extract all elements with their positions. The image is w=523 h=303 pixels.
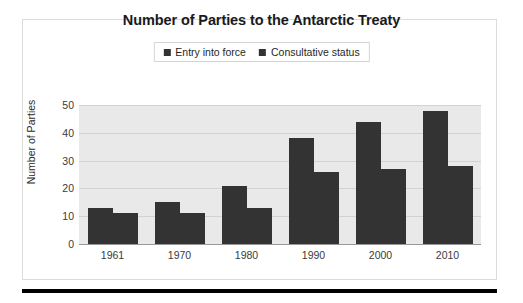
gridline [79,105,481,106]
legend-label: Entry into force [175,46,246,58]
plot-area [79,105,481,244]
gridline [79,161,481,162]
chart-title: Number of Parties to the Antarctic Treat… [0,12,523,28]
chart-legend: Entry into force Consultative status [153,42,369,62]
bottom-rule [22,289,497,293]
legend-item-consultative-status[interactable]: Consultative status [259,46,360,58]
gridline [79,188,481,189]
gridline [79,216,481,217]
legend-label: Consultative status [271,46,360,58]
legend-item-entry-into-force[interactable]: Entry into force [163,46,246,58]
legend-swatch-icon [259,49,266,56]
legend-swatch-icon [163,49,170,56]
gridline [79,133,481,134]
